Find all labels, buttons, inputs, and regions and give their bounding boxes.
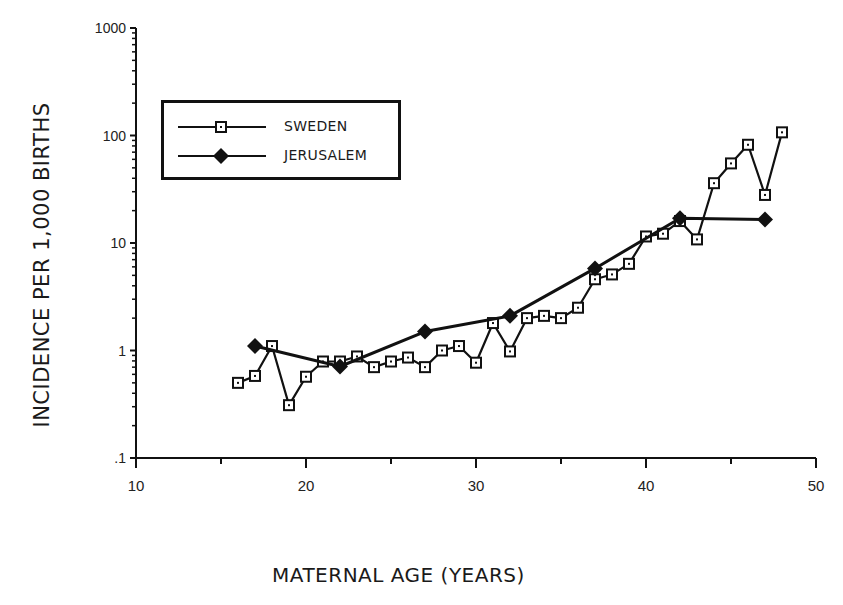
legend-label-jerusalem: JERUSALEM — [284, 147, 367, 163]
legend-item-sweden: SWEDEN — [164, 117, 398, 137]
legend-label-sweden: SWEDEN — [284, 118, 347, 134]
legend-item-jerusalem: JERUSALEM — [164, 146, 398, 166]
x-tick-label: 10 — [128, 477, 145, 494]
x-tick-label: 30 — [468, 477, 485, 494]
y-tick-label: .1 — [114, 450, 126, 466]
legend: SWEDEN JERUSALEM — [161, 100, 401, 180]
y-tick-label: 1 — [118, 343, 126, 359]
data-point-diamond — [417, 324, 433, 340]
x-tick-label: 50 — [808, 477, 825, 494]
y-axis-label: INCIDENCE PER 1,000 BIRTHS — [30, 102, 54, 427]
filled-diamond-marker-icon — [178, 146, 268, 166]
x-axis-label: MATERNAL AGE (YEARS) — [272, 563, 525, 587]
y-tick-label: 10 — [110, 235, 126, 251]
axes: .111010010001020304050 — [95, 20, 825, 494]
y-tick-label: 100 — [103, 128, 127, 144]
open-square-marker-icon — [178, 117, 268, 137]
x-tick-label: 40 — [638, 477, 655, 494]
data-point-diamond — [757, 212, 773, 228]
data-point-diamond — [502, 308, 518, 324]
data-point-diamond — [247, 338, 263, 354]
x-tick-label: 20 — [298, 477, 315, 494]
chart-plot-area: .111010010001020304050 — [0, 0, 843, 605]
y-tick-label: 1000 — [95, 20, 126, 36]
